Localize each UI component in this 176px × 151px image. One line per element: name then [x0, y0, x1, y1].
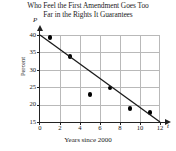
chart-title-line-1: Who Feel the First Amendment Goes Too: [0, 1, 176, 10]
x-tick-label: 12: [152, 125, 168, 132]
data-point: [148, 110, 153, 115]
y-tick-mark: [37, 52, 40, 53]
chart-title: Who Feel the First Amendment Goes Too Fa…: [0, 1, 176, 19]
y-tick-mark: [37, 35, 40, 36]
x-axis-label: Years since 2000: [0, 136, 176, 144]
gridline-vertical: [120, 35, 121, 122]
gridline-vertical: [80, 35, 81, 122]
x-tick-mark: [80, 122, 81, 125]
y-tick-mark: [37, 122, 40, 123]
chart-title-line-2: Far in the Rights It Guarantees: [0, 10, 176, 19]
x-tick-mark: [60, 122, 61, 125]
x-tick-label: 10: [132, 125, 148, 132]
x-tick-mark: [100, 122, 101, 125]
gridline-vertical: [60, 35, 61, 122]
gridline-horizontal: [40, 105, 160, 106]
x-tick-mark: [120, 122, 121, 125]
plot-right-border: [159, 35, 160, 122]
y-tick-label: 20: [22, 101, 36, 108]
data-point: [88, 92, 93, 97]
x-tick-label: 6: [92, 125, 108, 132]
data-point: [68, 54, 73, 59]
x-tick-label: 4: [72, 125, 88, 132]
gridline-vertical: [100, 35, 101, 122]
x-tick-label: 2: [52, 125, 68, 132]
gridline-horizontal: [40, 87, 160, 88]
data-point: [108, 86, 113, 91]
y-axis-variable: P: [33, 16, 37, 24]
x-tick-mark: [160, 122, 161, 125]
x-tick-label: 8: [112, 125, 128, 132]
data-point: [128, 106, 133, 111]
y-tick-mark: [37, 87, 40, 88]
gridline-horizontal: [40, 70, 160, 71]
data-point: [48, 35, 53, 40]
gridline-vertical: [140, 35, 141, 122]
x-tick-label: 0: [32, 125, 48, 132]
y-axis-label: Percent: [19, 37, 26, 97]
y-tick-mark: [37, 70, 40, 71]
x-tick-mark: [140, 122, 141, 125]
plot-area: [40, 35, 160, 122]
gridline-horizontal: [40, 52, 160, 53]
y-tick-mark: [37, 105, 40, 106]
y-axis-arrow-icon: [37, 25, 43, 31]
scatter-plot-figure: Who Feel the First Amendment Goes Too Fa…: [0, 0, 176, 151]
